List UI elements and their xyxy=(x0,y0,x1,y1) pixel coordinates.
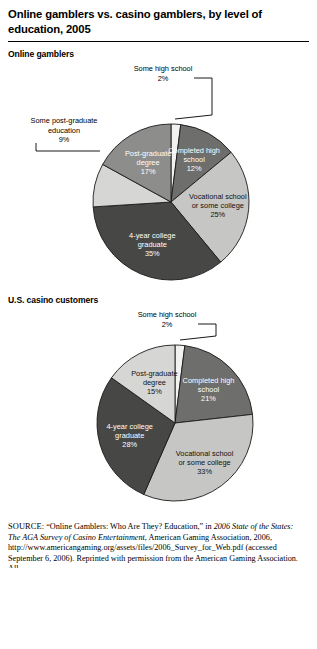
title-divider xyxy=(8,41,309,42)
pie-callout-leader-line xyxy=(36,143,100,151)
pie-chart-casino-customers-svg: Completed highschool21%Vocational school… xyxy=(8,306,309,516)
page-title: Online gamblers vs. casino gamblers, by … xyxy=(8,0,309,37)
pie-callout-leader-line xyxy=(175,78,212,119)
chart1-heading: Online gamblers xyxy=(8,49,309,60)
pie-callouts: Some high school2% xyxy=(138,310,216,340)
source-text: “Online Gamblers: Who Are They? Educatio… xyxy=(8,522,298,568)
pie-chart-online-gamblers-svg: Completed highschool12%Vocational school… xyxy=(8,60,309,288)
pie-chart-casino-customers: Completed highschool21%Vocational school… xyxy=(8,306,309,516)
pie-callout-label: Some post-graduateeducation9% xyxy=(31,116,98,144)
pie-callout-leader-line xyxy=(180,324,216,340)
pie-callout-label: Some high school2% xyxy=(138,310,197,329)
figure-page: Online gamblers vs. casino gamblers, by … xyxy=(0,0,317,649)
chart2-heading: U.S. casino customers xyxy=(8,295,309,306)
pie-callout-label: Some high school2% xyxy=(134,64,193,83)
source-label: SOURCE: xyxy=(8,522,44,531)
pie-chart-online-gamblers: Completed highschool12%Vocational school… xyxy=(8,60,309,288)
source-note: SOURCE: “Online Gamblers: Who Are They? … xyxy=(8,522,305,568)
